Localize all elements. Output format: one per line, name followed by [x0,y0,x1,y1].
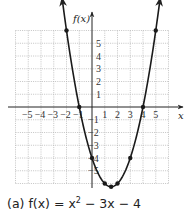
x-tick-label: −4 [35,109,46,120]
caption-rhs-x: x [68,196,75,211]
parabola-curve [62,0,160,187]
data-point [109,184,113,188]
y-tick-label: 4 [96,51,101,62]
y-tick-label: 5 [96,38,101,49]
caption-lhs: f(x) [28,196,50,211]
y-tick-label: −2 [88,127,99,138]
data-point [154,28,158,32]
y-axis-label: f(x) [72,13,90,24]
data-point [77,105,81,109]
y-tick-label: 3 [96,63,101,74]
data-point [103,181,107,185]
caption-exponent: 2 [76,196,81,205]
x-tick-label: −2 [60,109,71,120]
x-axis-label: x [178,110,184,121]
x-tick-label: 5 [153,109,158,120]
y-tick-label: 1 [96,89,101,100]
x-tick-label: 2 [115,109,120,120]
parabola-path [62,0,160,187]
caption-equals: = [54,196,64,211]
function-plot: xf(x) −5−4−3−2−11234554321−1−2−3−4−5 [0,0,193,195]
data-points [64,28,158,189]
x-tick-label: 1 [102,109,107,120]
data-point [115,181,119,185]
data-point [64,28,68,32]
caption-label: (a) [7,196,24,211]
x-tick-label: 3 [128,109,133,120]
caption-rhs-rest: − 3x − 4 [85,196,141,211]
figure-caption: (a) f(x) = x2 − 3x − 4 [7,196,141,211]
y-tick-label: −1 [88,114,99,125]
y-tick-label: 2 [96,76,101,87]
data-point [128,156,132,160]
x-tick-label: −5 [22,109,33,120]
data-point [90,156,94,160]
data-point [141,105,145,109]
x-tick-label: −3 [47,109,58,120]
